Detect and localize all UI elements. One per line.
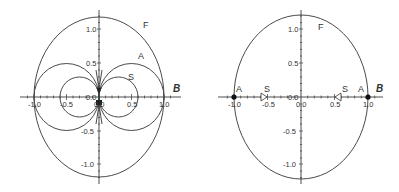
label-s: S	[128, 72, 134, 82]
x-tick-label: 1.0	[159, 100, 169, 109]
y-tick-label: 0.5	[86, 59, 96, 68]
x-tick-label: -1.0	[228, 100, 241, 109]
x-tick-label: 1.0	[363, 100, 373, 109]
y-tick-label: 0.5	[288, 59, 298, 68]
label-a: A	[138, 51, 144, 61]
x-tick-label: 0.5	[127, 100, 137, 109]
y-tick-label: 0.0	[86, 93, 96, 102]
label-a-left: A	[236, 84, 242, 94]
label-s-left: S	[264, 84, 270, 94]
label-f: F	[143, 20, 149, 30]
y-tick-label: 0.0	[288, 93, 298, 102]
y-tick-label: -1.0	[81, 160, 94, 169]
axis-label-b: B	[173, 83, 180, 94]
label-a-right: A	[358, 84, 364, 94]
left-panel: -1.0 -0.5 0.0 0.5 1.0 1.0 0.5 0.0 -0.5 -…	[20, 10, 181, 184]
y-tick-label: 1.0	[86, 25, 96, 34]
diagram-canvas: -1.0 -0.5 0.0 0.5 1.0 1.0 0.5 0.0 -0.5 -…	[0, 0, 399, 192]
x-tick-label: -0.5	[60, 100, 73, 109]
fixed-point-a-right-icon	[365, 94, 370, 99]
x-tick-label: 0.5	[330, 100, 340, 109]
origin-arrow-down-icon	[97, 88, 102, 94]
x-tick-label: -0.5	[262, 100, 275, 109]
label-f: F	[318, 22, 324, 32]
fixed-point-a-left-icon	[231, 94, 236, 99]
y-tick-label: -0.5	[81, 127, 94, 136]
y-tick-label: 1.0	[288, 25, 298, 34]
y-tick-label: -0.5	[283, 127, 296, 136]
y-tick-label: -1.0	[283, 160, 296, 169]
right-panel: -1.0 -0.5 0.0 0.5 1.0 1.0 0.5 0.0 -0.5 -…	[218, 10, 383, 184]
x-tick-label: -1.0	[28, 100, 41, 109]
axis-label-b: B	[376, 83, 383, 94]
label-s-right: S	[342, 84, 348, 94]
